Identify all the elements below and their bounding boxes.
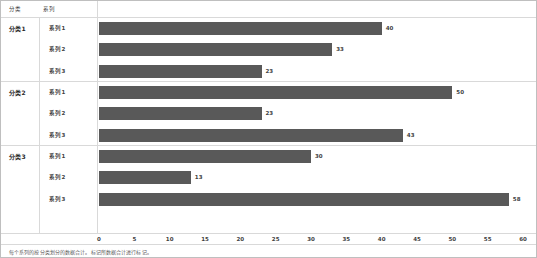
bar[interactable] bbox=[99, 22, 382, 35]
bar-value-label: 50 bbox=[456, 89, 464, 95]
series-label: 系列2 bbox=[49, 109, 65, 117]
x-axis-tick-label: 30 bbox=[307, 236, 315, 242]
footnote-text: 每个系列的按分类划分的数据合计。标记所数据合计进行标记。 bbox=[9, 248, 152, 255]
column-header-category: 分类 bbox=[9, 5, 21, 13]
x-axis-tick-label: 10 bbox=[166, 236, 174, 242]
x-axis-tick-label: 45 bbox=[413, 236, 421, 242]
bar-value-label: 43 bbox=[407, 132, 415, 138]
x-axis-tick-label: 60 bbox=[519, 236, 527, 242]
column-header-series: 系列 bbox=[43, 5, 55, 13]
chart-row: 系列358 bbox=[1, 189, 536, 210]
series-label: 系列2 bbox=[49, 45, 65, 53]
series-label: 系列3 bbox=[49, 67, 65, 75]
x-axis-tick-label: 20 bbox=[237, 236, 245, 242]
chart-row: 系列213 bbox=[1, 167, 536, 188]
chart-group: 分类3系列130系列213系列358 bbox=[1, 146, 536, 210]
x-axis-tick-label: 50 bbox=[449, 236, 457, 242]
bar[interactable] bbox=[99, 171, 191, 184]
bar[interactable] bbox=[99, 65, 262, 78]
table-header: 分类 系列 bbox=[1, 1, 536, 18]
chart-group: 分类1系列140系列233系列323 bbox=[1, 18, 536, 82]
series-label: 系列3 bbox=[49, 195, 65, 203]
bar-value-label: 58 bbox=[513, 196, 521, 202]
bar[interactable] bbox=[99, 43, 332, 56]
chart-row: 系列233 bbox=[1, 39, 536, 60]
bar-value-label: 33 bbox=[336, 46, 344, 52]
chart-row: 系列140 bbox=[1, 18, 536, 39]
series-label: 系列3 bbox=[49, 131, 65, 139]
chart-group: 分类2系列150系列223系列343 bbox=[1, 82, 536, 146]
x-axis-tick-label: 25 bbox=[272, 236, 280, 242]
x-axis-tick-label: 55 bbox=[484, 236, 492, 242]
chart-row: 系列223 bbox=[1, 103, 536, 124]
bar[interactable] bbox=[99, 193, 509, 206]
bar[interactable] bbox=[99, 86, 452, 99]
series-label: 系列1 bbox=[49, 24, 65, 32]
x-axis: 051015202530354045505560 bbox=[1, 233, 536, 244]
chart-row: 系列323 bbox=[1, 61, 536, 82]
chart-row: 系列130 bbox=[1, 146, 536, 167]
series-label: 系列2 bbox=[49, 173, 65, 181]
bar[interactable] bbox=[99, 129, 403, 142]
bar-value-label: 13 bbox=[195, 174, 203, 180]
chart-row: 系列150 bbox=[1, 82, 536, 103]
chart-row: 系列343 bbox=[1, 125, 536, 146]
bar-value-label: 30 bbox=[315, 153, 323, 159]
x-axis-tick-label: 0 bbox=[97, 236, 101, 242]
x-axis-tick-label: 40 bbox=[378, 236, 386, 242]
chart-footnote: 每个系列的按分类划分的数据合计。标记所数据合计进行标记。 bbox=[1, 244, 536, 257]
chart-panel: 分类 系列 分类1系列140系列233系列323分类2系列150系列223系列3… bbox=[0, 0, 537, 258]
bar-value-label: 23 bbox=[266, 68, 274, 74]
x-axis-tick-label: 15 bbox=[201, 236, 209, 242]
series-label: 系列1 bbox=[49, 88, 65, 96]
bar[interactable] bbox=[99, 107, 262, 120]
x-axis-tick-label: 35 bbox=[343, 236, 351, 242]
x-axis-tick-label: 5 bbox=[132, 236, 136, 242]
bar[interactable] bbox=[99, 150, 311, 163]
bar-value-label: 23 bbox=[266, 110, 274, 116]
series-label: 系列1 bbox=[49, 152, 65, 160]
bar-value-label: 40 bbox=[386, 25, 394, 31]
